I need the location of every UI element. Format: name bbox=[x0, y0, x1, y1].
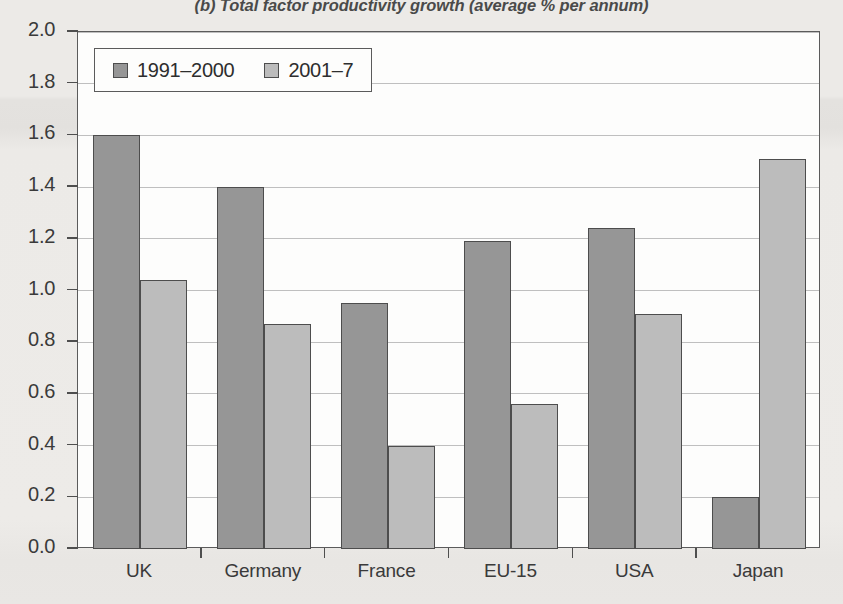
x-axis-label-usa: USA bbox=[572, 560, 696, 582]
x-axis-tick bbox=[695, 548, 697, 558]
bar-france-series-2 bbox=[388, 446, 435, 549]
x-axis-label-eu-15: EU-15 bbox=[449, 560, 573, 582]
y-axis-tick-label: 0.6 bbox=[9, 380, 55, 403]
y-axis-tick-label: 1.8 bbox=[9, 70, 55, 93]
x-axis-label-uk: UK bbox=[77, 560, 201, 582]
gridline bbox=[78, 393, 819, 394]
bar-eu-15-series-2 bbox=[511, 404, 558, 549]
y-axis-tick bbox=[67, 237, 78, 239]
bar-japan-series-1 bbox=[712, 497, 759, 549]
gridline bbox=[78, 342, 819, 343]
y-axis-tick-label: 2.0 bbox=[9, 18, 55, 41]
gridline bbox=[78, 238, 819, 239]
y-axis-tick bbox=[67, 134, 78, 136]
y-axis-tick bbox=[67, 496, 78, 498]
x-axis-tick bbox=[448, 548, 450, 558]
legend-label: 2001–7 bbox=[288, 59, 353, 82]
x-axis-label-japan: Japan bbox=[696, 560, 820, 582]
gridline bbox=[78, 187, 819, 188]
y-axis-tick-label: 0.0 bbox=[9, 535, 55, 558]
bar-usa-series-2 bbox=[635, 314, 682, 549]
y-axis-tick bbox=[67, 185, 78, 187]
y-axis-tick bbox=[67, 392, 78, 394]
bar-germany-series-2 bbox=[264, 324, 311, 549]
y-axis-tick bbox=[67, 289, 78, 291]
chart-title: (b) Total factor productivity growth (av… bbox=[0, 0, 843, 16]
y-axis-tick bbox=[67, 340, 78, 342]
bar-france-series-1 bbox=[341, 303, 388, 549]
x-axis-label-france: France bbox=[325, 560, 449, 582]
bar-germany-series-1 bbox=[217, 187, 264, 549]
gridline bbox=[78, 497, 819, 498]
y-axis-tick bbox=[67, 82, 78, 84]
y-axis-tick bbox=[67, 444, 78, 446]
chart-legend: 1991–20002001–7 bbox=[94, 48, 372, 92]
bar-eu-15-series-1 bbox=[464, 241, 511, 549]
legend-item-1: 1991–2000 bbox=[113, 59, 234, 82]
y-axis-tick-label: 1.6 bbox=[9, 121, 55, 144]
y-axis-tick bbox=[67, 547, 78, 549]
bar-uk-series-1 bbox=[93, 135, 140, 549]
y-axis-tick-label: 0.8 bbox=[9, 328, 55, 351]
x-axis-tick bbox=[200, 548, 202, 558]
gridline bbox=[78, 32, 819, 33]
gridline bbox=[78, 290, 819, 291]
legend-swatch-icon bbox=[113, 63, 128, 78]
legend-label: 1991–2000 bbox=[137, 59, 234, 82]
bar-uk-series-2 bbox=[140, 280, 187, 549]
legend-item-2: 2001–7 bbox=[264, 59, 353, 82]
y-axis-tick-label: 1.2 bbox=[9, 225, 55, 248]
legend-swatch-icon bbox=[264, 63, 279, 78]
y-axis-tick-label: 0.4 bbox=[9, 432, 55, 455]
gridline bbox=[78, 445, 819, 446]
y-axis-tick bbox=[67, 30, 78, 32]
x-axis-tick bbox=[324, 548, 326, 558]
x-axis-tick bbox=[572, 548, 574, 558]
y-axis-tick-label: 1.4 bbox=[9, 173, 55, 196]
gridline bbox=[78, 135, 819, 136]
y-axis-tick-label: 1.0 bbox=[9, 277, 55, 300]
y-axis-tick-label: 0.2 bbox=[9, 483, 55, 506]
bar-usa-series-1 bbox=[588, 228, 635, 549]
plot-area bbox=[77, 31, 820, 548]
bar-japan-series-2 bbox=[759, 159, 806, 549]
x-axis-label-germany: Germany bbox=[201, 560, 325, 582]
